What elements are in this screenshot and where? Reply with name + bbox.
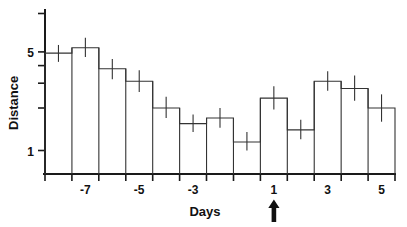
x-tick-label-3: 3 bbox=[324, 183, 331, 197]
up-arrow-marker-icon bbox=[268, 200, 279, 223]
y-tick-label-1: 1 bbox=[27, 145, 34, 159]
y-axis-ticks bbox=[38, 14, 45, 151]
x-tick-label-5: 5 bbox=[378, 183, 385, 197]
x-tick-label--7: -7 bbox=[80, 183, 91, 197]
figure-panel: 1 5 Distance -7 -5 -3 1 3 5 Days bbox=[0, 0, 407, 227]
x-axis-ticks bbox=[45, 174, 395, 181]
error-bars-layer bbox=[58, 38, 381, 151]
x-axis-title: Days bbox=[189, 204, 220, 219]
x-tick-label--3: -3 bbox=[188, 183, 199, 197]
x-tick-label-1: 1 bbox=[271, 183, 278, 197]
y-tick-label-5: 5 bbox=[27, 46, 34, 60]
x-tick-label--5: -5 bbox=[134, 183, 145, 197]
y-axis-title: Distance bbox=[6, 76, 21, 130]
distance-vs-days-bar-chart: 1 5 Distance -7 -5 -3 1 3 5 Days bbox=[0, 0, 407, 227]
